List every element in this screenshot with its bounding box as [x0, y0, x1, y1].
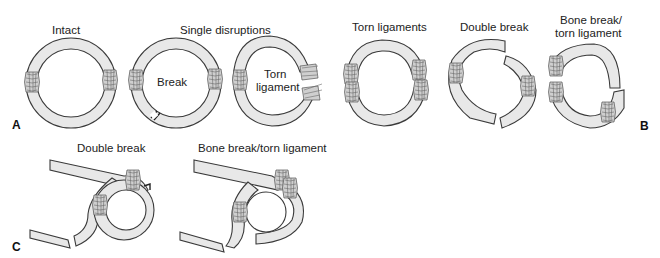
- ring-intact: [25, 38, 118, 128]
- ring-double-break: [449, 40, 537, 128]
- label-double-break-c: Double break: [77, 142, 145, 155]
- label-bone-break-b-line2: torn ligament: [555, 27, 621, 40]
- ligament-right-icon: [521, 76, 536, 96]
- ligament-upper-icon: [126, 170, 141, 190]
- ligament-right-icon: [103, 70, 118, 90]
- ligament-torn-icon: [549, 56, 564, 76]
- label-ligament: ligament: [256, 81, 299, 94]
- ligament-torn-icon: [283, 178, 298, 198]
- ligament-torn-icon: [549, 82, 564, 102]
- ring-torn-ligaments: [344, 40, 429, 126]
- pelvis-double-break: [30, 160, 154, 248]
- label-break: Break: [157, 76, 187, 89]
- label-intact: Intact: [52, 24, 80, 37]
- ring-bone-break-torn-ligament: [549, 44, 625, 128]
- torn-ligament-icon: [300, 64, 322, 100]
- ligament-left-icon: [25, 72, 40, 92]
- pelvis-bone-break-torn-ligament: [180, 160, 304, 252]
- label-bone-break-c: Bone break/torn ligament: [198, 142, 327, 155]
- label-torn: Torn: [264, 68, 286, 81]
- ligament-torn-icon: [414, 80, 429, 100]
- panel-label-c: C: [12, 240, 21, 254]
- label-torn-ligaments: Torn ligaments: [352, 21, 427, 34]
- ligament-torn-icon: [345, 82, 360, 102]
- ligament-right-icon: [601, 102, 616, 122]
- ligament-torn-icon: [344, 64, 359, 84]
- ligament-right-icon: [208, 69, 223, 89]
- panel-label-b: B: [640, 119, 649, 133]
- ligament-left-icon: [93, 195, 108, 215]
- ligament-left-icon: [233, 70, 248, 90]
- ligament-left-icon: [449, 63, 464, 83]
- ligament-torn-icon: [412, 60, 427, 80]
- ligament-left-icon: [129, 70, 144, 90]
- panel-label-a: A: [12, 118, 21, 132]
- label-double-break-b: Double break: [460, 21, 528, 34]
- ligament-left-icon: [233, 202, 248, 222]
- label-bone-break-b-line1: Bone break/: [560, 14, 622, 27]
- label-single-disruptions: Single disruptions: [180, 24, 271, 37]
